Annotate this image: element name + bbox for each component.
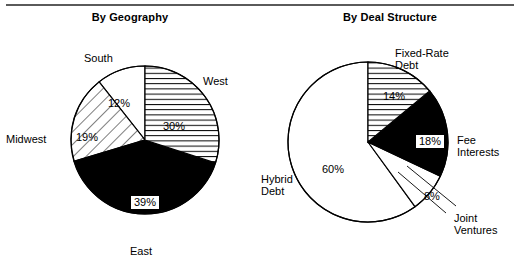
label-joint-ventures: Joint bbox=[454, 212, 477, 225]
panel-by-geography: By Geography South bbox=[0, 0, 260, 267]
value-midwest: 19% bbox=[76, 131, 98, 144]
label-hybrid-debt-line2: Debt bbox=[261, 185, 284, 198]
value-east: 39% bbox=[130, 195, 160, 210]
figure-canvas: By Geography South bbox=[0, 0, 520, 267]
label-fee-interests: Fee bbox=[457, 134, 476, 147]
label-midwest: Midwest bbox=[6, 133, 46, 146]
label-hybrid-debt: Hybrid bbox=[261, 173, 293, 186]
label-fixed-rate-debt-line2: Debt bbox=[395, 59, 418, 72]
value-south: 12% bbox=[108, 97, 130, 110]
label-west: West bbox=[203, 75, 228, 88]
label-joint-ventures-line2: Ventures bbox=[454, 224, 497, 237]
label-fixed-rate-debt: Fixed-Rate bbox=[395, 47, 449, 60]
value-fee-interests: 18% bbox=[415, 134, 445, 149]
label-fee-interests-line2: Interests bbox=[457, 146, 499, 159]
value-fixed-rate-debt: 14% bbox=[383, 90, 405, 103]
value-west: 30% bbox=[163, 120, 185, 133]
label-east: East bbox=[130, 245, 152, 258]
value-hybrid-debt: 60% bbox=[322, 163, 344, 176]
label-south: South bbox=[84, 52, 113, 65]
value-joint-ventures: 8% bbox=[424, 190, 440, 203]
panel-by-deal-structure: By Deal Structure Fixed-Rate bbox=[260, 0, 520, 267]
